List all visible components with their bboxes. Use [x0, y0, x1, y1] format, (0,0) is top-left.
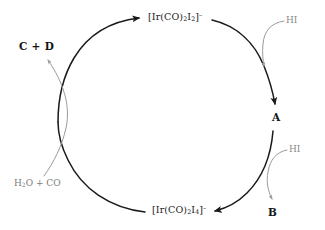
reagent-label-water-co: H2O + CO [14, 179, 61, 188]
cycle-arc-bottom-left [58, 122, 145, 212]
product-label-b: B [268, 207, 277, 218]
formula-charge: – [199, 11, 202, 19]
node-label-ir-co2-i2: [Ir(CO)2I2]– [148, 12, 202, 22]
formula-charge: – [203, 204, 206, 212]
reagent-arrow-hi-top [263, 21, 284, 66]
reagent-arrow-water-co-to-cd [44, 60, 67, 176]
reagent-label-hi-bottom: HI [289, 145, 300, 154]
reagent-label-hi-top: HI [286, 16, 297, 25]
node-label-a: A [272, 112, 280, 123]
reagent-arrow-hi-bottom-to-b [267, 150, 287, 199]
water-co-rest: O + CO [26, 178, 61, 188]
node-label-ir-co2-i4: [Ir(CO)2I4]– [152, 205, 206, 215]
product-label-c-plus-d: C + D [19, 41, 54, 52]
cycle-arc-bottom-right [215, 131, 273, 211]
catalytic-cycle-figure: [Ir(CO)2I2]– [Ir(CO)2I4]– A C + D B HI H… [0, 0, 325, 230]
formula-open: [Ir(CO) [148, 11, 183, 22]
water-h: H [14, 178, 22, 188]
cycle-arc-top-left [58, 18, 139, 122]
formula-open: [Ir(CO) [152, 204, 187, 215]
